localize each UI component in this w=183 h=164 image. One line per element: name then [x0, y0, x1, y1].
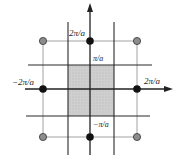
first-brillouin-zone: [68, 65, 114, 116]
grey-point-icon: [133, 133, 140, 140]
label-bottom-negpi: −π/a: [93, 120, 109, 129]
grey-point-icon: [39, 37, 46, 44]
label-top-pi: π/a: [93, 54, 103, 63]
label-top-2pi: 2π/a: [69, 28, 86, 38]
black-point-icon: [133, 85, 141, 93]
label-right-2pi: 2π/a: [144, 76, 161, 86]
grey-point-icon: [133, 37, 140, 44]
grey-point-icon: [39, 133, 46, 140]
black-point-icon: [86, 133, 94, 141]
black-point-icon: [86, 37, 94, 45]
brillouin-zone-diagram: 2π/a π/a −2π/a 2π/a −π/a: [0, 0, 183, 164]
ky-arrow-icon: [87, 3, 93, 12]
kx-arrow-icon: [164, 86, 173, 92]
label-left-neg2pi: −2π/a: [12, 77, 35, 87]
black-point-icon: [39, 85, 47, 93]
